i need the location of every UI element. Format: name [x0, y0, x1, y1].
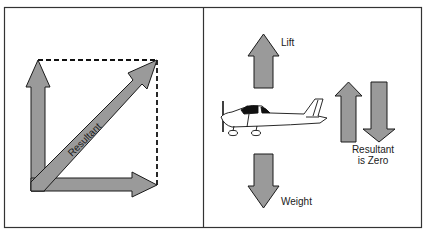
weight-label: Weight — [281, 196, 312, 207]
outer-frame — [5, 8, 422, 228]
resultant-zero-label-line1: Resultant — [352, 144, 394, 155]
resultant-zero-label-line2: is Zero — [358, 155, 389, 166]
force-diagram: Resultant Lift Weight — [0, 0, 425, 233]
lift-label: Lift — [281, 37, 295, 48]
